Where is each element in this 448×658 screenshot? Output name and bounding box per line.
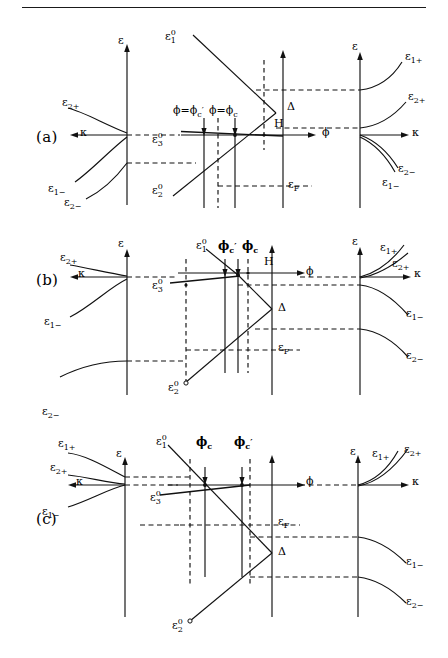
panel-c-branch-eps2 xyxy=(190,553,272,621)
panel-a-phi-arrowhead xyxy=(308,132,316,138)
panel-c-right-curve-eps2minus xyxy=(358,577,406,603)
panel-c-label-eps3-zero: ε03 xyxy=(150,489,161,506)
panel-a-label-delta: Δ xyxy=(287,100,295,113)
panel-c-dot-crossing-1 xyxy=(203,483,207,487)
panel-b-label-critical-2: ϕc xyxy=(242,239,258,255)
panel-a-center-vertical-arrowhead xyxy=(280,50,286,58)
panel-c-label-eps-right-axis: ε xyxy=(350,445,356,458)
panel-a-label-critical-1: ϕ=ϕc′ xyxy=(173,104,204,119)
panel-b: (b) xyxy=(0,215,448,425)
panel-b-dot-left xyxy=(184,283,187,286)
panel-b-label-right-eps2plus: ε2+ xyxy=(392,257,410,272)
panel-a-label-eps2plus: ε2+ xyxy=(62,96,80,111)
panel-a-label-eps1minus: ε1− xyxy=(48,182,66,197)
panel-c-right-vertical-arrowhead xyxy=(355,455,361,463)
panel-c-label-eps1plus: ε1+ xyxy=(58,437,76,452)
panel-c-label-right-eps1minus: ε1− xyxy=(406,555,424,570)
panel-b-label-critical-1: ϕc′ xyxy=(218,239,237,255)
panel-a-label-kappa: κ xyxy=(80,126,87,139)
panel-a-label-eps-right-axis: ε xyxy=(352,40,358,53)
panel-b-label-eps2-zero: ε02 xyxy=(168,379,179,396)
panel-b-label-kappa: κ xyxy=(78,267,85,280)
panel-c-label-fermi: εF xyxy=(278,515,289,530)
panel-b-dot-right xyxy=(246,271,249,274)
panel-a-left-vertical-arrowhead xyxy=(124,44,130,52)
panel-b-label-right-eps1plus: ε1+ xyxy=(380,241,398,256)
panel-b-label-eps3-zero: ε03 xyxy=(152,277,163,294)
panel-a-label-right-eps2plus: ε2+ xyxy=(408,90,426,105)
panel-c-label-eps-left-axis: ε xyxy=(116,447,122,460)
panel-c-label-eps1minus: ε1− xyxy=(42,505,60,520)
panel-b-right-kappa-arrowhead xyxy=(403,274,411,280)
panel-a-right-kappa-arrowhead xyxy=(401,132,409,138)
panel-b-right-curve-eps1minus xyxy=(360,285,408,315)
panel-a-label-right-eps1plus: ε1+ xyxy=(405,50,423,65)
panel-a-label-right-kappa: κ xyxy=(412,126,419,139)
panel-b-label-eps1-zero: ε01 xyxy=(196,237,207,254)
panel-a-dot-crossing xyxy=(233,133,237,137)
panel-c-label-delta: Δ xyxy=(278,545,286,558)
panel-c-label-right-eps2minus: ε2− xyxy=(406,595,424,610)
panel-a-curve-eps2plus xyxy=(68,108,127,133)
panel-c-label-critical-1: ϕc xyxy=(196,435,212,451)
panel-c-label-right-kappa: κ xyxy=(412,475,419,488)
panel-a-dot-H xyxy=(262,133,265,136)
panel-a-label-fermi: εF xyxy=(288,178,299,193)
panel-c-center-vertical-arrowhead xyxy=(269,455,275,463)
panel-c-right-curve-eps1minus xyxy=(358,537,406,563)
panel-b-label-fermi: εF xyxy=(278,341,289,356)
panel-b-label-delta: Δ xyxy=(278,301,286,314)
panel-b-left-vertical-arrowhead xyxy=(124,249,130,257)
panel-b-label-eps2minus: ε2− xyxy=(42,405,60,420)
panel-c-right-kappa-arrowhead xyxy=(401,482,409,488)
panel-a-label-right-eps2minus: ε2− xyxy=(398,162,416,177)
panel-b-label-eps-right-axis: ε xyxy=(352,235,358,248)
panel-a-right-vertical-arrowhead xyxy=(357,52,363,60)
panel-a-label-critical-2: ϕ=ϕc xyxy=(209,104,238,119)
panel-b-branch-eps2 xyxy=(185,309,272,383)
panel-b-right-vertical-arrowhead xyxy=(357,247,363,255)
panel-a-label-H: H xyxy=(274,117,284,130)
panel-b-label-eps1minus: ε1− xyxy=(44,315,62,330)
panel-b-open-dot-eps2 xyxy=(184,381,188,385)
panel-a-right-curve-eps1plus xyxy=(360,62,402,90)
panel-c-label-right-eps2plus: ε2+ xyxy=(404,443,422,458)
panel-b-label-phi: ϕ xyxy=(306,265,314,278)
panel-a-label-eps1-zero: ε01 xyxy=(165,28,176,45)
panel-a: (a) xyxy=(0,0,448,215)
panel-a-left-kappa-arrowhead xyxy=(70,132,78,138)
panel-b-label-right-eps2minus: ε2− xyxy=(406,349,424,364)
panel-b-level-eps3 xyxy=(170,276,240,283)
panel-c-label-kappa: κ xyxy=(76,475,83,488)
panel-c-dot-crossing-2 xyxy=(240,483,244,487)
panel-b-dot-crossing xyxy=(236,273,240,277)
panel-b-phi-arrowhead xyxy=(297,270,305,276)
panel-b-curve-eps1minus xyxy=(70,279,127,317)
panel-c-label-phi: ϕ xyxy=(306,475,314,488)
panel-a-label-eps-left-axis: ε xyxy=(118,34,124,47)
panel-c-left-vertical-arrowhead xyxy=(122,457,128,465)
panel-a-branch-eps2 xyxy=(173,113,276,196)
panel-c-branch-eps1 xyxy=(168,445,272,553)
panel-c-label-critical-2: ϕc′ xyxy=(234,435,253,451)
panel-c-curve-eps1minus xyxy=(68,485,125,507)
panel-c-label-eps2plus: ε2+ xyxy=(50,461,68,476)
panel-b-left-kappa-arrowhead xyxy=(70,274,78,280)
panel-c-open-dot-eps2 xyxy=(188,619,192,623)
panel-a-label-eps2minus: ε2− xyxy=(64,196,82,211)
panel-b-label-eps2plus: ε2+ xyxy=(60,251,78,266)
panel-b-label-right-eps1minus: ε1− xyxy=(406,307,424,322)
panel-a-label-eps2-zero: ε02 xyxy=(152,182,163,199)
panel-b-center-vertical-arrowhead xyxy=(269,245,275,253)
panel-c-left-kappa-arrowhead xyxy=(68,482,76,488)
panel-c-label-eps1-zero: ε01 xyxy=(156,433,167,450)
panel-a-right-curve-eps2plus xyxy=(360,102,406,128)
panel-a-label-eps3-zero: ε03 xyxy=(152,131,163,148)
panel-b-label-H: H xyxy=(264,255,274,268)
panel-b-label-right-kappa: κ xyxy=(414,267,421,280)
panel-b-label-eps-left-axis: ε xyxy=(118,237,124,250)
panel-c: (c) xyxy=(0,425,448,658)
figure-canvas: (a) xyxy=(0,0,448,658)
panel-b-branch-eps1-delta xyxy=(238,275,272,309)
panel-a-label-phi: ϕ xyxy=(322,126,330,139)
